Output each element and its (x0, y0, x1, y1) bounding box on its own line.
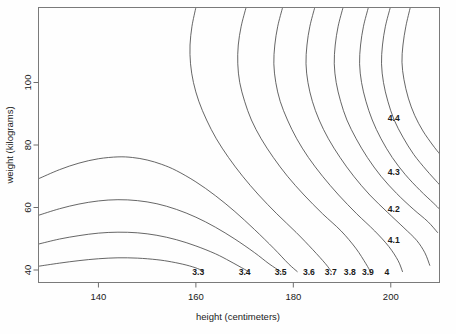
y-axis-title: weight (kilograms) (4, 106, 15, 184)
x-tick-label-180: 180 (285, 291, 301, 302)
y-tick-label-80: 80 (22, 140, 33, 151)
contour-label-3-9: 3.9 (362, 267, 374, 277)
contour-label-4-1: 4.1 (388, 235, 400, 245)
contour-label-3-5: 3.5 (275, 267, 287, 277)
contour-label-3-6: 3.6 (303, 267, 315, 277)
x-tick-label-200: 200 (383, 291, 399, 302)
x-tick-label-160: 160 (188, 291, 204, 302)
contour-label-4-2: 4.2 (388, 204, 400, 214)
x-tick-label-140: 140 (91, 291, 107, 302)
contour-label-4-4: 4.4 (388, 113, 400, 123)
contour-label-3-4: 3.4 (239, 267, 251, 277)
y-tick-label-100: 100 (22, 75, 33, 91)
chart-canvas: 140160180200406080100 3.33.43.53.63.73.8… (0, 0, 456, 334)
contour-label-3-8: 3.8 (344, 267, 356, 277)
contour-label-4: 4 (384, 267, 389, 277)
contour-label-3-7: 3.7 (325, 267, 337, 277)
y-tick-label-60: 60 (22, 202, 33, 213)
y-tick-label-40: 40 (22, 265, 33, 276)
x-axis-title: height (centimeters) (196, 311, 280, 322)
contour-label-3-3: 3.3 (192, 267, 204, 277)
contour-plot-figure: 140160180200406080100 3.33.43.53.63.73.8… (0, 0, 456, 334)
contour-label-4-3: 4.3 (388, 167, 400, 177)
